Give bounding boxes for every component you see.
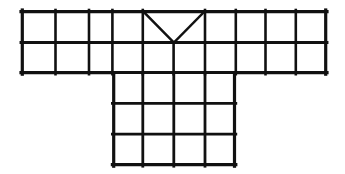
t-shaped-grid-diagram (0, 0, 345, 174)
figure-root (0, 0, 345, 174)
